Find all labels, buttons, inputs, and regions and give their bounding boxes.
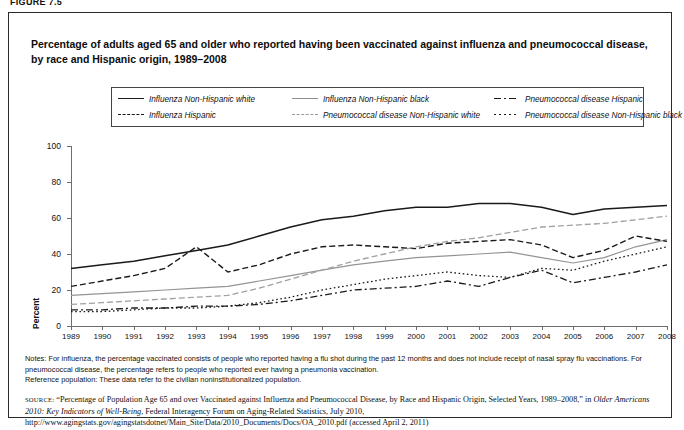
legend-label: Influenza Non-Hispanic white xyxy=(149,95,255,104)
chart-notes: Notes: For influenza, the percentage vac… xyxy=(25,354,670,386)
chart-plot-area: Percent 020406080100 1989199019911992199… xyxy=(23,133,673,348)
legend-label: Pneumococcal disease Non-Hispanic white xyxy=(323,111,480,120)
notes-line-1: Notes: For influenza, the percentage vac… xyxy=(25,354,670,375)
series-line xyxy=(71,265,667,310)
legend-item: Pneumococcal disease Non-Hispanic black xyxy=(494,107,644,123)
legend-column-1: Influenza Non-Hispanic white Influenza H… xyxy=(118,91,293,123)
line-style-icon xyxy=(118,110,144,120)
series-line xyxy=(71,204,667,269)
page-title: Percentage of adults aged 65 and older w… xyxy=(31,37,661,67)
legend-column-3: Pneumococcal disease Hispanic Pneumococc… xyxy=(494,91,644,123)
source-label: SOURCE: xyxy=(25,396,54,403)
notes-line-2: Reference population: These data refer t… xyxy=(25,375,670,386)
series-line xyxy=(71,240,667,296)
legend-label: Influenza Non-Hispanic black xyxy=(323,95,429,104)
legend-item: Pneumococcal disease Non-Hispanic white xyxy=(292,107,482,123)
figure-label: FIGURE 7.5 xyxy=(10,0,62,7)
chart-series-layer xyxy=(23,133,673,348)
figure-frame: Percentage of adults aged 65 and older w… xyxy=(8,12,672,418)
line-style-icon xyxy=(292,110,318,120)
line-style-icon xyxy=(118,94,144,104)
legend-item: Pneumococcal disease Hispanic xyxy=(494,91,644,107)
legend-column-2: Influenza Non-Hispanic black Pneumococca… xyxy=(292,91,482,123)
legend-label: Pneumococcal disease Hispanic xyxy=(525,95,643,104)
line-style-icon xyxy=(494,110,520,120)
line-style-icon xyxy=(292,94,318,104)
series-line xyxy=(71,216,667,304)
legend-label: Pneumococcal disease Non-Hispanic black xyxy=(525,111,682,120)
legend-label: Influenza Hispanic xyxy=(149,111,216,120)
line-style-icon xyxy=(494,94,520,104)
chart-legend: Influenza Non-Hispanic white Influenza H… xyxy=(111,87,644,127)
source-quoted-title: “Percentage of Population Age 65 and ove… xyxy=(56,395,593,404)
legend-item: Influenza Non-Hispanic white xyxy=(118,91,293,107)
chart-source: SOURCE: “Percentage of Population Age 65… xyxy=(25,394,670,429)
series-line xyxy=(71,236,667,286)
legend-item: Influenza Hispanic xyxy=(118,107,293,123)
legend-item: Influenza Non-Hispanic black xyxy=(292,91,482,107)
